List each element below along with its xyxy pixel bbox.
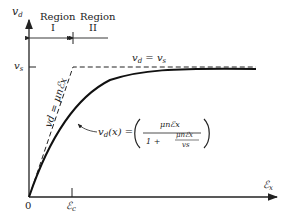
ec-label: ℰc (66, 201, 76, 213)
region-i-numeral: I (51, 23, 55, 33)
curve-denominator-one: 1 + (146, 138, 160, 146)
velocity-field-diagram: vd = μnℰx (0, 0, 291, 217)
curve-numerator: μnℰx (160, 121, 180, 129)
origin-label: 0 (25, 201, 31, 211)
x-axis-label: ℰx (263, 180, 273, 192)
curve-inner-denominator: vs (182, 142, 190, 149)
region-i-name: Region (40, 12, 76, 22)
saturation-label: vd = vs (132, 53, 166, 65)
left-paren (135, 119, 140, 148)
vs-label: vs (14, 61, 23, 73)
region-ii-numeral: II (89, 23, 97, 33)
right-paren (204, 119, 209, 148)
region-ii-name: Region (80, 12, 116, 22)
y-axis-label: vd (12, 6, 23, 19)
curve-pointer (78, 124, 97, 132)
curve-equation-lhs: vd(x) = (98, 127, 133, 139)
curve-inner-numerator: μnℰx (176, 132, 193, 139)
